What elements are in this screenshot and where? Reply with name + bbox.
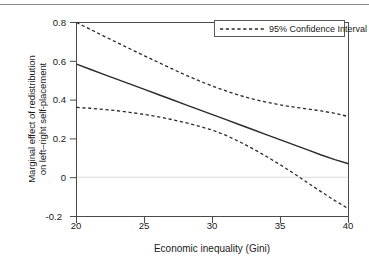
y-axis-ticks bbox=[70, 23, 76, 217]
plot-frame bbox=[77, 23, 349, 217]
legend-dashed-line-icon bbox=[220, 24, 264, 34]
figure-container: 0.8 0.6 0.4 0.2 0 -0.2 20 25 30 35 40 Ma… bbox=[0, 0, 369, 267]
x-axis-title: Economic inequality (Gini) bbox=[76, 243, 348, 254]
x-tick-label-3: 35 bbox=[265, 220, 295, 231]
legend: 95% Confidence Interval bbox=[214, 20, 345, 37]
x-tick-label-4: 40 bbox=[333, 220, 363, 231]
marginal-effect-line bbox=[77, 64, 349, 164]
ci-lower-line bbox=[77, 107, 349, 208]
x-tick-label-1: 25 bbox=[129, 220, 159, 231]
data-lines bbox=[77, 23, 349, 209]
legend-label-ci: 95% Confidence Interval bbox=[269, 24, 367, 34]
x-tick-label-0: 20 bbox=[61, 220, 91, 231]
x-tick-label-2: 30 bbox=[197, 220, 227, 231]
y-axis-title: Marginal effect of redistribution on lef… bbox=[14, 22, 60, 216]
